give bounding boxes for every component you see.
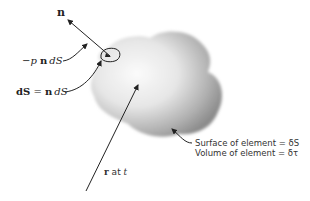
fluid-element-diagram: n −p ndS dS = ndS r at t Surface of elem… xyxy=(0,0,310,201)
area-vector-label: dS = ndS xyxy=(16,86,68,97)
fluid-element-blob xyxy=(91,31,222,136)
dS-italic: dS xyxy=(54,86,67,97)
n-bold: n xyxy=(40,55,48,66)
t-italic: t xyxy=(124,167,128,177)
position-label: r at t xyxy=(104,167,128,177)
dS-italic: dS xyxy=(49,55,62,66)
surface-label: Surface of element = δS xyxy=(195,138,299,148)
at-text: at xyxy=(109,167,124,177)
pressure-force-label: −p ndS xyxy=(22,55,63,66)
equals: = xyxy=(30,86,45,97)
n-bold: n xyxy=(45,86,53,97)
normal-vector-arrow xyxy=(68,20,110,56)
volume-label: Volume of element = δτ xyxy=(195,148,298,158)
normal-vector-label: n xyxy=(57,6,65,19)
dS-bold: dS xyxy=(16,86,30,97)
minus-p: −p xyxy=(22,55,40,66)
pressure-force-leader xyxy=(63,44,87,61)
